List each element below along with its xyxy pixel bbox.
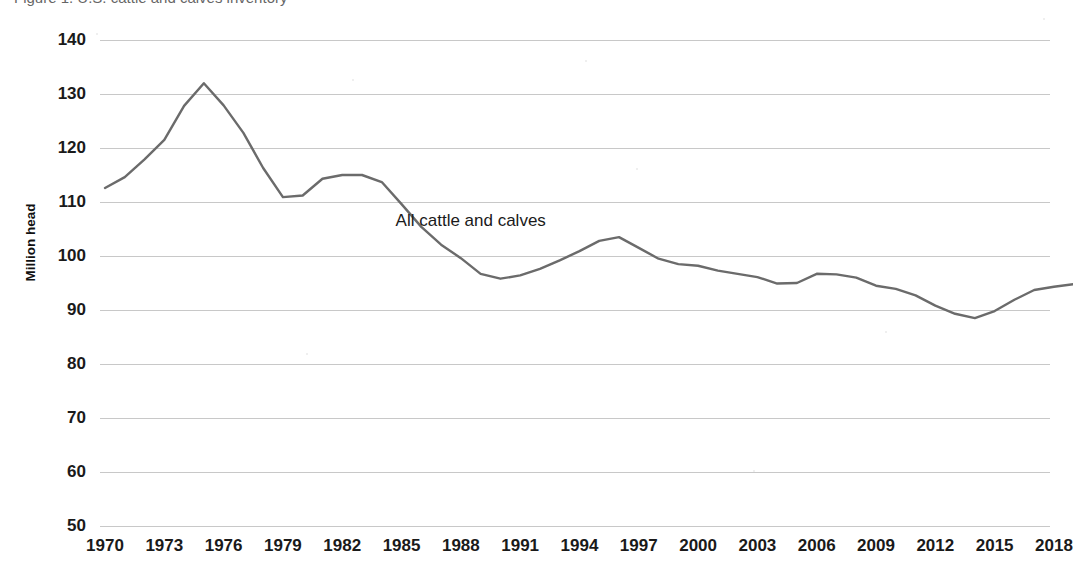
scan-speck [885,331,887,333]
scan-speck [636,168,638,170]
scan-speck [96,33,98,35]
scan-speck [585,60,587,62]
scan-speck [1043,18,1045,20]
scan-speck [352,79,354,81]
scan-speck [753,470,755,472]
series-inline-label: All cattle and calves [396,211,546,231]
scan-speck [306,353,308,355]
series-line-all-cattle-and-calves [105,83,1073,318]
